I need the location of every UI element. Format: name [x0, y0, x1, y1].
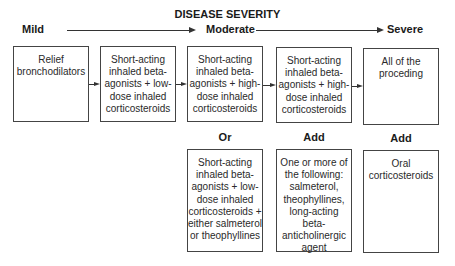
step-box-3: Short-acting inhaled beta-agonists + hig… [187, 46, 263, 122]
severity-arrow-moderate-to-severe [256, 30, 377, 31]
alternative-label-add: Add [363, 132, 439, 144]
arrowhead-icon [94, 82, 100, 86]
arrowhead-icon [377, 27, 384, 33]
alternative-label-add: Add [276, 131, 352, 143]
step-box-1: Relief bronchodilators [13, 46, 89, 122]
alternative-box-2: One or more of the following: salmeterol… [276, 149, 352, 252]
arrowhead-icon [357, 84, 363, 88]
alternative-box-1: Short-acting inhaled beta-agonists + low… [187, 149, 263, 252]
step-box-5: All of the proceding [363, 48, 439, 125]
diagram-title: DISEASE SEVERITY [0, 8, 455, 20]
arrowhead-icon [181, 82, 187, 86]
step-box-4: Short-acting inhaled beta-agonists + hig… [276, 47, 352, 123]
arrowhead-icon [270, 83, 276, 87]
alternative-label-or: Or [187, 131, 263, 143]
step-box-2: Short-acting inhaled beta-agonists + low… [100, 46, 176, 122]
severity-arrow-mild-to-moderate [67, 30, 189, 31]
alternative-box-3: Oral corticosteroids [363, 150, 439, 253]
severity-moderate-label: Moderate [206, 23, 255, 35]
severity-severe-label: Severe [387, 23, 423, 35]
arrowhead-icon [189, 27, 196, 33]
connector-3-4 [263, 85, 270, 86]
severity-mild-label: Mild [22, 23, 44, 35]
